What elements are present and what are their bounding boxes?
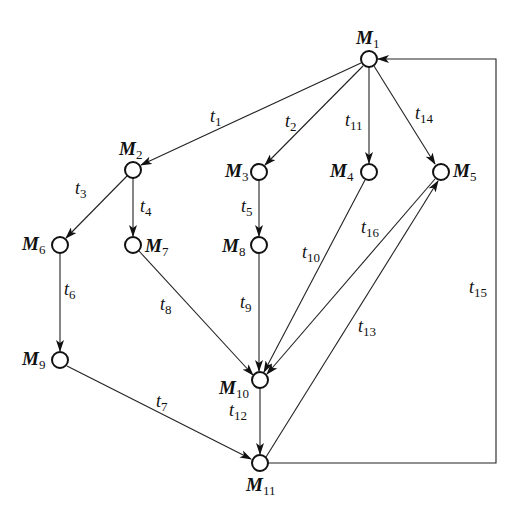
node-m3 [251,164,267,180]
node-m5 [433,164,449,180]
label-m8: M8 [221,235,245,259]
label-t13: t13 [358,316,376,339]
edge-t8 [139,251,253,375]
node-m10 [252,372,268,388]
edge-t10 [264,180,365,372]
edge-t16 [267,179,435,374]
label-t9: t9 [240,292,252,315]
node-m9 [52,352,68,368]
node-m4 [361,164,377,180]
label-t11: t11 [345,110,363,133]
label-m4: M4 [329,160,354,184]
state-graph-canvas: t1 t2 t3 t4 t5 t6 t7 t8 t9 t10 t11 t12 t… [0,0,516,513]
node-m8 [251,237,267,253]
label-m6: M6 [21,233,46,257]
label-m2: M2 [118,138,142,162]
node-m7 [125,237,141,253]
label-t7: t7 [156,391,168,414]
label-m3: M3 [224,160,248,184]
label-m9: M9 [21,348,45,372]
label-t3: t3 [75,178,87,201]
node-labels: M1 M2 M3 M4 M5 M6 M7 M8 M9 M10 M11 [21,27,476,498]
label-m5: M5 [452,160,476,184]
label-t15: t15 [469,277,487,300]
label-t8: t8 [160,294,172,317]
label-m1: M1 [355,27,379,51]
label-m7: M7 [144,235,169,259]
node-m2 [125,162,141,178]
label-t10: t10 [302,242,320,265]
label-m10: M10 [218,377,249,401]
label-t2: t2 [285,111,297,134]
label-t14: t14 [415,103,434,126]
label-t12: t12 [229,400,247,423]
label-t5: t5 [241,196,253,219]
node-m1 [361,51,377,67]
label-m11: M11 [245,474,275,498]
edge-t1 [141,63,361,165]
label-t16: t16 [361,217,380,240]
label-t4: t4 [140,196,152,219]
node-m6 [52,237,68,253]
label-t6: t6 [64,279,76,302]
node-m11 [252,455,268,471]
label-t1: t1 [210,106,222,129]
